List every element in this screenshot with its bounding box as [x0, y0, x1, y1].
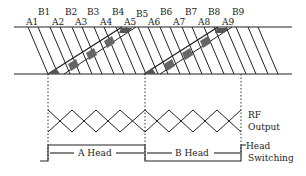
scan-band-a — [48, 27, 136, 74]
a-track-labels: A1 A2 A3 A4 A5 A6 A7 A8 A9 — [25, 17, 234, 27]
svg-text:A7: A7 — [172, 17, 185, 27]
svg-text:A5: A5 — [123, 17, 136, 27]
svg-text:A1: A1 — [25, 17, 38, 27]
scan-band-b — [144, 27, 232, 74]
svg-text:B9: B9 — [232, 7, 245, 17]
head-switching-label-2: Switching — [248, 153, 294, 163]
svg-text:B6: B6 — [160, 7, 173, 17]
b-head-label: B Head — [175, 148, 209, 158]
track-lines — [28, 27, 278, 74]
svg-text:B8: B8 — [208, 7, 221, 17]
b-track-labels: B1 B2 B3 B4 B5 B6 B7 B8 B9 — [38, 7, 245, 19]
head-switching-waveform — [40, 145, 246, 161]
head-switching-label: Head — [246, 141, 271, 151]
svg-text:A3: A3 — [74, 17, 87, 27]
svg-text:B2: B2 — [65, 7, 77, 17]
rf-output-label-2: Output — [248, 122, 280, 132]
helical-scan-diagram: B1 B2 B3 B4 B5 B6 B7 B8 B9 A1 A2 A3 A4 A… — [0, 0, 306, 176]
svg-text:B1: B1 — [38, 7, 50, 17]
svg-text:A2: A2 — [51, 17, 64, 27]
diagram-canvas: B1 B2 B3 B4 B5 B6 B7 B8 B9 A1 A2 A3 A4 A… — [0, 0, 306, 176]
svg-text:B3: B3 — [87, 7, 100, 17]
svg-text:A8: A8 — [197, 17, 210, 27]
rf-output-label: RF — [248, 110, 261, 120]
svg-text:A9: A9 — [221, 17, 234, 27]
svg-text:B7: B7 — [185, 7, 198, 17]
svg-text:A4: A4 — [99, 17, 112, 27]
svg-text:A6: A6 — [147, 17, 160, 27]
a-head-label: A Head — [77, 148, 112, 158]
svg-text:B5: B5 — [136, 9, 149, 19]
svg-text:B4: B4 — [112, 7, 125, 17]
